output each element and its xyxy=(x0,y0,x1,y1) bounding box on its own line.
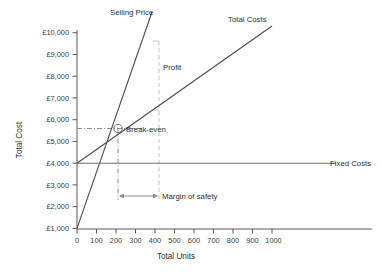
x-axis-title: Total Units xyxy=(157,252,195,261)
y-tick-label-2000: £2,000 xyxy=(46,202,69,211)
y-tick-label-1000: £1,000 xyxy=(46,224,69,233)
y-tick-label-8000: £8,000 xyxy=(46,72,69,81)
x-tick-label-0: 0 xyxy=(75,236,79,245)
y-tick-label-4000: £4,000 xyxy=(46,159,69,168)
x-tick-label-700: 700 xyxy=(207,236,219,245)
series-label-selling-price: Selling Price xyxy=(110,8,153,17)
x-tick-label-500: 500 xyxy=(168,236,180,245)
x-tick-label-1000: 1000 xyxy=(265,236,281,245)
annotation-margin-of-safety-label: Margin of safety xyxy=(162,192,218,201)
x-tick-label-600: 600 xyxy=(188,236,200,245)
x-tick-label-200: 200 xyxy=(110,236,122,245)
annotation-break-even-label: Break-even xyxy=(126,125,166,134)
y-tick-label-7000: £7,000 xyxy=(46,94,69,103)
annotation-profit-label: Profit xyxy=(163,63,182,72)
x-tick-label-900: 900 xyxy=(246,236,258,245)
y-axis-title: Total Cost xyxy=(15,121,24,158)
break-even-chart: £10,000 £9,000 £8,000 £7,000 £6,000 £5,0… xyxy=(0,0,382,275)
y-tick-label-6000: £6,000 xyxy=(46,115,69,124)
y-tick-label-9000: £9,000 xyxy=(46,50,69,59)
x-tick-label-300: 300 xyxy=(129,236,141,245)
y-tick-label-3000: £3,000 xyxy=(46,181,69,190)
y-tick-label-10000: £10,000 xyxy=(42,28,69,37)
series-label-total-costs: Total Costs xyxy=(228,15,267,24)
x-tick-label-400: 400 xyxy=(149,236,161,245)
x-tick-label-100: 100 xyxy=(90,236,102,245)
x-tick-label-800: 800 xyxy=(227,236,239,245)
chart-svg: £10,000 £9,000 £8,000 £7,000 £6,000 £5,0… xyxy=(0,0,382,275)
series-label-fixed-costs: Fixed Costs xyxy=(330,159,371,168)
y-tick-label-5000: £5,000 xyxy=(46,137,69,146)
